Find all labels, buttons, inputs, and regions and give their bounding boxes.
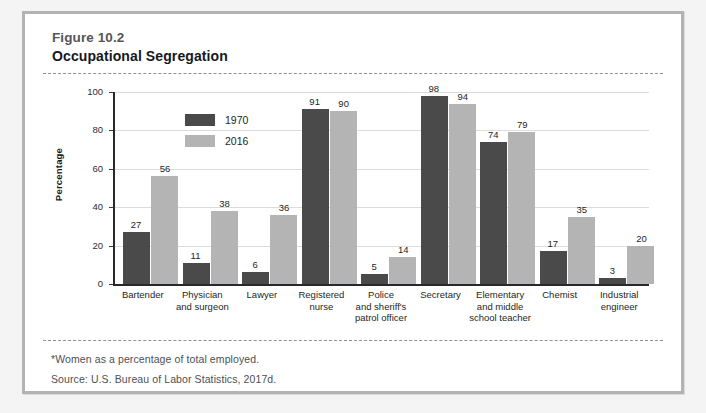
bar-value-label: 90 (327, 98, 361, 109)
x-axis-label: Industrialengineer (571, 289, 667, 312)
bar-value-label: 35 (565, 204, 599, 215)
bar (421, 96, 448, 284)
bar-value-label: 5 (357, 261, 391, 272)
bar-value-label: 20 (624, 233, 658, 244)
legend-swatch-2016 (185, 135, 215, 147)
figure-card: Figure 10.2 Occupational Segregation Per… (25, 14, 681, 391)
bar-value-label: 17 (536, 238, 570, 249)
bar (361, 274, 388, 284)
bar-value-label: 79 (505, 119, 539, 130)
bar-group: 2756 (119, 92, 179, 284)
bar-group: 514 (357, 92, 417, 284)
y-tick-label: 40 (75, 201, 103, 212)
y-tick-label: 0 (75, 278, 103, 289)
bar-value-label: 3 (595, 265, 629, 276)
bar (480, 142, 507, 284)
bar-value-label: 38 (208, 198, 242, 209)
bar (599, 278, 626, 284)
bar (330, 111, 357, 284)
bar-value-label: 6 (238, 259, 272, 270)
bar (508, 132, 535, 284)
y-axis-title: Percentage (53, 120, 64, 230)
bar-value-label: 94 (446, 91, 480, 102)
legend-label-2016: 2016 (225, 135, 248, 147)
y-tick-label: 100 (75, 86, 103, 97)
legend-label-1970: 1970 (225, 114, 248, 126)
screenshot-background: Figure 10.2 Occupational Segregation Per… (0, 0, 706, 413)
bar-value-label: 27 (119, 219, 153, 230)
bar (568, 217, 595, 284)
bar-value-label: 74 (476, 129, 510, 140)
figure-source: Source: U.S. Bureau of Labor Statistics,… (51, 373, 276, 385)
bar-group: 9894 (417, 92, 477, 284)
bar-value-label: 36 (267, 202, 301, 213)
legend-swatch-1970 (185, 114, 215, 126)
bar-group: 1735 (536, 92, 596, 284)
bar-group: 320 (595, 92, 655, 284)
bar (540, 251, 567, 284)
bar-value-label: 14 (386, 244, 420, 255)
figure-note: *Women as a percentage of total employed… (51, 353, 259, 365)
bar (389, 257, 416, 284)
bar-value-label: 56 (148, 163, 182, 174)
bar (123, 232, 150, 284)
bar-group: 7479 (476, 92, 536, 284)
divider-bottom (43, 340, 663, 341)
bar (270, 215, 297, 284)
bar-value-label: 11 (179, 250, 213, 261)
bar (211, 211, 238, 284)
bar (151, 176, 178, 284)
bar (302, 109, 329, 284)
figure-frame: Figure 10.2 Occupational Segregation Per… (22, 11, 684, 394)
bar (627, 246, 654, 284)
bar (183, 263, 210, 284)
y-tick-label: 20 (75, 240, 103, 251)
y-tick-label: 80 (75, 124, 103, 135)
y-tick-label: 60 (75, 163, 103, 174)
bar (449, 104, 476, 284)
bar-group: 9190 (298, 92, 358, 284)
bar (242, 272, 269, 284)
